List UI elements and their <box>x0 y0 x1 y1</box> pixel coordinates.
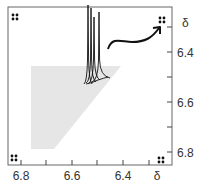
y-axis-ticks <box>167 27 172 152</box>
x-axis-unit: δ <box>154 169 161 183</box>
y-tick-label: 6.4 <box>177 46 194 60</box>
nmr-diagram: 6.8 6.6 6.4 δ δ 6.4 6.6 6.8 <box>0 0 203 184</box>
x-tick-label: 6.4 <box>115 169 132 183</box>
curved-arrow-icon <box>108 27 160 49</box>
y-tick-label: 6.6 <box>177 96 194 110</box>
four-dot-icon <box>12 14 19 21</box>
four-dot-icon <box>159 17 166 24</box>
y-axis-unit: δ <box>182 16 189 30</box>
x-tick-label: 6.8 <box>13 169 30 183</box>
x-tick-label: 6.6 <box>64 169 81 183</box>
four-dot-icon <box>158 157 165 164</box>
four-dot-icon <box>11 155 18 162</box>
x-axis-ticks <box>21 160 149 165</box>
shaded-region <box>31 66 121 149</box>
y-tick-label: 6.8 <box>177 146 194 160</box>
